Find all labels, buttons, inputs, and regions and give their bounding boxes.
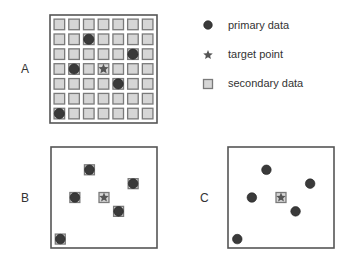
primary-dot bbox=[84, 34, 94, 44]
primary-dot bbox=[128, 49, 138, 59]
primary-dot bbox=[305, 179, 315, 189]
secondary-square bbox=[83, 49, 94, 60]
secondary-square bbox=[83, 19, 94, 30]
primary-dot bbox=[55, 234, 65, 244]
secondary-square bbox=[83, 93, 94, 104]
primary-dot bbox=[232, 234, 242, 244]
secondary-square bbox=[142, 79, 153, 90]
circle-icon bbox=[204, 21, 213, 30]
secondary-square bbox=[128, 64, 139, 75]
secondary-square bbox=[54, 93, 65, 104]
secondary-square bbox=[113, 93, 124, 104]
secondary-square bbox=[113, 49, 124, 60]
primary-dot bbox=[262, 165, 272, 175]
secondary-square bbox=[83, 64, 94, 75]
secondary-square bbox=[128, 34, 139, 45]
secondary-square bbox=[69, 19, 80, 30]
secondary-square bbox=[128, 108, 139, 119]
primary-dot bbox=[70, 193, 80, 203]
primary-dot bbox=[128, 179, 138, 189]
panel-b bbox=[51, 147, 157, 248]
secondary-square bbox=[83, 79, 94, 90]
secondary-square bbox=[98, 49, 109, 60]
secondary-square bbox=[98, 34, 109, 45]
secondary-square bbox=[113, 108, 124, 119]
secondary-square bbox=[83, 108, 94, 119]
primary-dot bbox=[85, 165, 95, 175]
square-icon bbox=[204, 80, 213, 89]
diagram-canvas bbox=[0, 0, 352, 255]
secondary-square bbox=[54, 64, 65, 75]
secondary-square bbox=[142, 93, 153, 104]
secondary-square bbox=[69, 49, 80, 60]
primary-dot bbox=[69, 64, 79, 74]
secondary-square bbox=[54, 34, 65, 45]
secondary-square bbox=[142, 64, 153, 75]
star-icon bbox=[203, 50, 213, 59]
secondary-square bbox=[128, 93, 139, 104]
primary-dot bbox=[114, 207, 124, 217]
secondary-square bbox=[113, 64, 124, 75]
secondary-square bbox=[113, 34, 124, 45]
secondary-square bbox=[54, 79, 65, 90]
panel-a bbox=[50, 15, 157, 123]
secondary-square bbox=[69, 79, 80, 90]
secondary-square bbox=[69, 93, 80, 104]
secondary-square bbox=[113, 19, 124, 30]
secondary-square bbox=[98, 108, 109, 119]
secondary-square bbox=[128, 19, 139, 30]
secondary-square bbox=[98, 79, 109, 90]
primary-dot bbox=[291, 207, 301, 217]
secondary-square bbox=[69, 108, 80, 119]
secondary-square bbox=[69, 34, 80, 45]
panel-c bbox=[228, 147, 334, 248]
primary-dot bbox=[247, 193, 257, 203]
secondary-square bbox=[54, 49, 65, 60]
secondary-square bbox=[128, 79, 139, 90]
secondary-square bbox=[142, 108, 153, 119]
secondary-square bbox=[142, 34, 153, 45]
secondary-square bbox=[98, 93, 109, 104]
legend bbox=[203, 21, 213, 89]
primary-dot bbox=[113, 79, 123, 89]
secondary-square bbox=[142, 19, 153, 30]
secondary-square bbox=[98, 19, 109, 30]
primary-dot bbox=[54, 108, 64, 118]
secondary-square bbox=[142, 49, 153, 60]
secondary-square bbox=[54, 19, 65, 30]
